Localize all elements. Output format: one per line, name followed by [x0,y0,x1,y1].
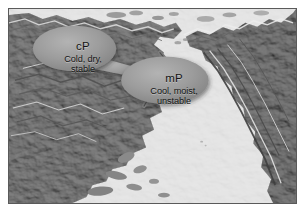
callout-mp-desc-line-2: unstable [157,96,191,106]
callout-cp-desc-line-1: Cold, dry, [64,54,102,64]
callout-mp-desc-line-1: Cool, moist, [150,86,197,96]
callout-cp-code: cP [76,40,90,53]
callout-mp: mP Cool, moist, unstable [130,63,218,115]
callout-cp: cP Cold, dry, stable [41,32,125,82]
map-frame: cP Cold, dry, stable mP Cool, moist, uns… [8,8,297,204]
callout-mp-code: mP [165,72,183,85]
air-mass-figure: cP Cold, dry, stable mP Cool, moist, uns… [0,0,306,214]
callout-cp-desc-line-2: stable [71,64,95,74]
